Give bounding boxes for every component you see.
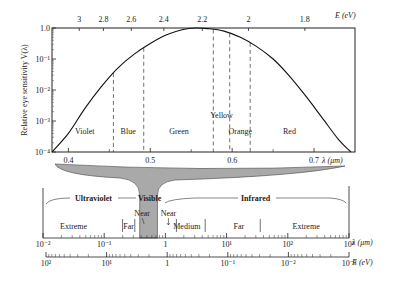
near-ir-arrow [167,218,170,225]
subregion-label: Near [134,209,150,218]
band-label-red: Red [283,127,296,136]
region-ultraviolet-label: Ultraviolet [75,194,112,203]
band-label-yellow: Yellow [210,111,233,120]
uv-brace-left [46,198,70,204]
subregion-label: Far [234,222,245,231]
energy-tick-label: 10² [41,259,52,268]
x-tick-label: 0.4 [63,156,73,165]
top-tick-label: 1.8 [300,15,310,24]
y-tick-label: 10⁻⁴ [35,148,50,157]
subregion-label: Far [123,222,134,231]
top-tick-label: 2 [246,15,250,24]
plot-layer: 1.010⁻¹10⁻²10⁻³10⁻⁴0.40.50.60.732.82.62.… [35,15,351,165]
y-tick-label: 10⁻³ [35,117,50,126]
energy-tick-label: 10⁻¹ [220,259,235,268]
top-tick-label: 3 [77,15,81,24]
lambda-tick-label: 10¹ [221,240,232,249]
lambda-tick-label: 1 [163,240,167,249]
sensitivity-curve [52,28,351,152]
x-tick-label: 0.5 [145,156,155,165]
top-tick-label: 2.2 [197,15,207,24]
band-label-orange: Orange [229,127,253,136]
energy-axis-title: E (eV) [351,258,373,267]
region-visible-label: Visible [138,194,162,203]
top-tick-label: 2.6 [126,15,136,24]
energy-tick-label: 10⁻² [281,259,296,268]
energy-tick-label: 10¹ [101,259,112,268]
subregion-label: Near [161,209,177,218]
lambda-tick-label: 10⁻² [36,240,51,249]
subregion-label: Extreme [293,222,321,231]
band-label-violet: Violet [75,127,95,136]
ir-brace-right [276,198,346,203]
lambda-axis-title: λ (μm) [351,238,373,247]
energy-tick-label: 1 [165,259,169,268]
y-tick-label: 10⁻¹ [35,55,50,64]
plot-frame [52,28,355,152]
top-axis-title: E (eV) [334,11,356,20]
band-label-green: Green [169,127,189,136]
band-label-blue: Blue [121,127,137,136]
subregion-label: Extreme [60,222,88,231]
top-tick-label: 2.8 [98,15,108,24]
y-tick-label: 10⁻² [35,86,50,95]
x-axis-title: λ (μm) [321,156,343,165]
top-tick-label: 2.4 [159,15,169,24]
y-tick-label: 1.0 [40,24,50,33]
y-axis-title: Relative eye sensitivity V(λ) [20,44,29,136]
lambda-tick-label: 10⁻¹ [97,240,112,249]
ir-brace-left [165,198,238,203]
x-tick-label: 0.6 [227,156,237,165]
eye-sensitivity-diagram: 1.010⁻¹10⁻²10⁻³10⁻⁴0.40.50.60.732.82.62.… [0,0,400,284]
region-infrared-label: Infrared [241,194,271,203]
x-tick-label: 0.7 [309,156,319,165]
lambda-tick-label: 10² [283,240,294,249]
subregion-label: Medium [173,222,201,231]
